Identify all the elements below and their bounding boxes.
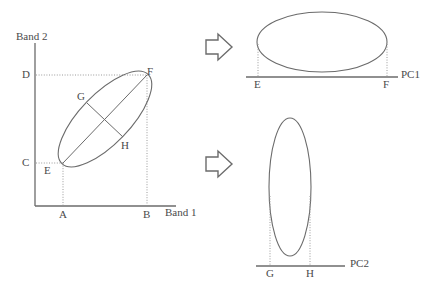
right-arrow-icon <box>206 151 232 177</box>
arrow-to-pc1 <box>206 34 232 60</box>
pc2-tick-label-g: G <box>266 268 274 279</box>
pc2-tick-label-h: H <box>306 268 314 279</box>
tick-label-a: A <box>59 209 67 220</box>
band2-axis-label: Band 2 <box>16 31 47 42</box>
band1-axis-label: Band 1 <box>165 207 196 218</box>
pc2-plot <box>256 118 345 266</box>
pc1-ellipse <box>257 12 387 72</box>
point-label-g: G <box>77 91 85 102</box>
tick-label-d: D <box>22 69 30 80</box>
pc1-plot <box>246 12 398 77</box>
point-label-h: H <box>121 140 129 151</box>
pc1-tick-label-f: F <box>383 79 389 90</box>
scatter-plot <box>35 43 176 206</box>
point-label-f: F <box>147 66 153 77</box>
pc2-ellipse <box>269 118 311 256</box>
major-axis-ef <box>63 75 147 163</box>
tick-label-c: C <box>22 157 29 168</box>
point-label-e: E <box>44 165 51 176</box>
pc2-axis-label: PC2 <box>350 258 369 269</box>
right-arrow-icon <box>206 34 232 60</box>
pc1-tick-label-e: E <box>254 79 261 90</box>
tick-label-b: B <box>143 209 150 220</box>
arrow-to-pc2 <box>206 151 232 177</box>
pca-diagram <box>0 0 437 293</box>
pc1-axis-label: PC1 <box>401 69 420 80</box>
